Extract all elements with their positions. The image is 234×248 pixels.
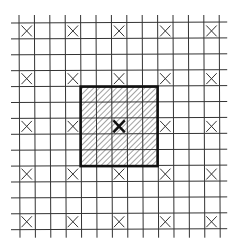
cell-x-mark (160, 26, 170, 37)
cell-x-mark (22, 121, 32, 132)
cell-x-mark (160, 73, 170, 84)
cell-x-mark (114, 169, 124, 180)
vertical-grid-line (173, 15, 174, 238)
vertical-grid-line (204, 15, 205, 238)
cell-x-mark (114, 26, 124, 37)
horizontal-grid-line (11, 149, 227, 150)
horizontal-grid-line (11, 38, 227, 39)
horizontal-grid-line (11, 213, 227, 214)
cell-x-mark (206, 216, 216, 227)
cell-x-mark (68, 121, 78, 132)
horizontal-grid-line (11, 133, 227, 134)
cell-x-mark (68, 26, 78, 37)
cell-x-mark (114, 73, 124, 84)
horizontal-grid-line (11, 22, 227, 23)
cell-x-mark (206, 121, 216, 132)
cell-x-mark (68, 73, 78, 84)
grid-diagram (0, 0, 234, 248)
cell-x-mark (160, 169, 170, 180)
vertical-grid-line (19, 15, 20, 238)
horizontal-grid-line (11, 229, 227, 230)
cell-x-mark (22, 73, 32, 84)
cell-x-mark (160, 121, 170, 132)
cell-x-mark (206, 73, 216, 84)
cell-x-mark (22, 26, 32, 37)
cell-x-mark (114, 216, 124, 227)
cell-x-mark (160, 216, 170, 227)
cell-x-mark (206, 169, 216, 180)
horizontal-grid-line (11, 181, 227, 182)
cell-x-mark (22, 216, 32, 227)
vertical-grid-line (219, 15, 220, 238)
horizontal-grid-line (11, 102, 227, 103)
horizontal-grid-line (11, 117, 227, 118)
vertical-grid-line (34, 15, 35, 238)
cell-x-mark (206, 26, 216, 37)
vertical-grid-line (65, 15, 66, 238)
cell-x-mark (68, 169, 78, 180)
cell-x-mark (22, 169, 32, 180)
vertical-grid-line (188, 15, 189, 238)
horizontal-grid-line (11, 54, 227, 55)
horizontal-grid-line (11, 197, 227, 198)
horizontal-grid-line (11, 70, 227, 71)
vertical-grid-line (142, 15, 143, 238)
vertical-grid-line (111, 15, 112, 238)
vertical-grid-line (96, 15, 97, 238)
cell-x-mark (68, 216, 78, 227)
vertical-grid-line (50, 15, 51, 238)
vertical-grid-line (127, 15, 128, 238)
